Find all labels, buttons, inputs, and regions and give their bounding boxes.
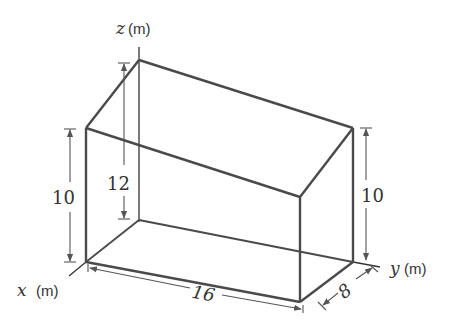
z-axis-label: z	[115, 18, 126, 38]
box-diagram: z (m) x (m) y (m) 10 12 10 16 8	[0, 0, 456, 331]
x-axis-label: x	[17, 280, 27, 300]
y-axis	[353, 262, 380, 267]
y-axis-label: y	[389, 258, 400, 278]
y-axis-unit: (m)	[404, 260, 427, 277]
axes	[69, 47, 380, 276]
z-axis-unit: (m)	[128, 20, 151, 37]
dim-width: 8	[333, 279, 355, 303]
x-axis	[69, 262, 86, 276]
x-axis-unit: (m)	[36, 282, 59, 299]
dim-front-height: 10	[52, 187, 75, 208]
dim-right-height: 10	[361, 185, 384, 206]
dim-back-height: 12	[107, 173, 130, 194]
dim-length: 16	[190, 281, 216, 306]
